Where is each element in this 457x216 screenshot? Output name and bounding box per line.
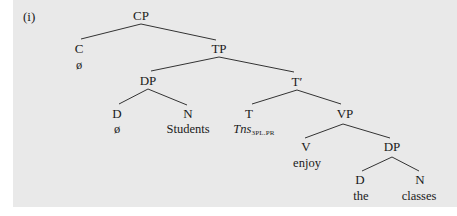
leaf-c-null: ø bbox=[76, 58, 82, 72]
branch-dpobj-n bbox=[392, 157, 419, 171]
leaf-tense-subscript: 3PL.PR bbox=[251, 129, 274, 137]
node-tp: TP bbox=[211, 42, 226, 56]
leaf-enjoy: enjoy bbox=[293, 156, 321, 170]
leaf-tense: Tns3PL.PR bbox=[233, 122, 274, 140]
node-vp: VP bbox=[337, 107, 354, 121]
node-dp-object: DP bbox=[384, 140, 401, 154]
branch-cp-c bbox=[81, 24, 141, 39]
branch-tbar-t bbox=[252, 90, 297, 104]
branch-dpobj-d bbox=[362, 157, 392, 171]
branch-vp-v bbox=[305, 124, 343, 138]
leaf-the: the bbox=[353, 189, 368, 203]
node-dp-subject: DP bbox=[140, 74, 157, 88]
node-d-object: D bbox=[355, 173, 364, 187]
leaf-classes: classes bbox=[402, 189, 437, 203]
node-v: V bbox=[301, 140, 310, 154]
node-t: T bbox=[245, 107, 253, 121]
node-n-subject: N bbox=[183, 107, 192, 121]
branch-tp-dp bbox=[151, 57, 219, 71]
branch-cp-tp bbox=[141, 24, 216, 40]
leaf-d-null: ø bbox=[114, 122, 120, 136]
node-d-subject: D bbox=[112, 107, 121, 121]
node-n-object: N bbox=[415, 173, 424, 187]
node-c: C bbox=[75, 42, 84, 56]
tree-branches bbox=[0, 0, 457, 216]
branch-vp-dp bbox=[343, 124, 390, 138]
branch-tbar-vp bbox=[297, 90, 341, 104]
leaf-students: Students bbox=[166, 122, 209, 136]
node-cp: CP bbox=[133, 9, 149, 23]
branch-dp-n bbox=[148, 89, 187, 105]
node-t-bar: T′ bbox=[292, 75, 303, 89]
leaf-tense-main: Tns bbox=[233, 122, 251, 136]
branch-tp-tbar bbox=[219, 57, 294, 72]
branch-dp-d bbox=[119, 89, 148, 104]
